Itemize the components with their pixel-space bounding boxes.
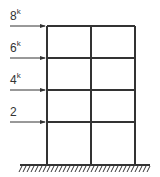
load-label-level-1: 2 <box>10 105 17 119</box>
load-label-level-2: 4k <box>10 71 22 87</box>
columns <box>47 26 135 165</box>
fixed-ground-support <box>19 165 150 172</box>
frame-diagram: 8k 6k 4k 2 <box>0 0 160 177</box>
load-label-level-3: 6k <box>10 39 22 55</box>
load-label-level-4: 8k <box>10 7 22 23</box>
